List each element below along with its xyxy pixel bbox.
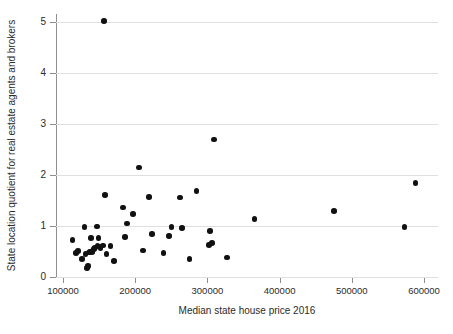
data-point bbox=[79, 256, 85, 262]
data-point bbox=[177, 195, 183, 201]
data-point bbox=[224, 255, 230, 261]
data-point bbox=[140, 248, 146, 254]
data-point bbox=[149, 231, 155, 237]
data-point bbox=[211, 137, 217, 143]
data-point bbox=[82, 224, 88, 230]
data-point bbox=[169, 224, 175, 230]
x-axis-title: Median state house price 2016 bbox=[56, 305, 438, 317]
data-point bbox=[209, 240, 215, 246]
plot-data-area bbox=[56, 14, 438, 277]
data-point bbox=[194, 188, 200, 194]
x-axis-tick-label: 500000 bbox=[336, 286, 368, 296]
x-axis-tick bbox=[207, 278, 208, 283]
data-point bbox=[207, 228, 213, 234]
data-point bbox=[413, 180, 419, 186]
data-point bbox=[130, 211, 136, 217]
x-axis-tick bbox=[63, 278, 64, 283]
data-point bbox=[96, 235, 102, 241]
data-point bbox=[122, 234, 128, 240]
x-axis-tick-label: 400000 bbox=[264, 286, 296, 296]
data-point bbox=[111, 258, 117, 264]
gridline-y bbox=[56, 73, 438, 74]
data-point bbox=[70, 237, 76, 243]
x-axis-tick bbox=[280, 278, 281, 283]
data-point bbox=[166, 233, 172, 239]
data-point bbox=[402, 224, 408, 230]
gridline-y bbox=[56, 175, 438, 176]
x-axis-tick-label: 300000 bbox=[192, 286, 224, 296]
x-axis-tick-label: 200000 bbox=[119, 286, 151, 296]
data-point bbox=[104, 251, 110, 257]
data-point bbox=[187, 256, 193, 262]
data-point bbox=[120, 205, 126, 211]
x-axis-tick bbox=[352, 278, 353, 283]
scatter-plot-figure: 012345 100000200000300000400000500000600… bbox=[0, 0, 453, 334]
data-point bbox=[100, 243, 106, 249]
data-point bbox=[102, 192, 108, 198]
data-point bbox=[179, 225, 185, 231]
y-axis-title: State location quotient for real estate … bbox=[6, 14, 36, 277]
gridline-y bbox=[56, 226, 438, 227]
data-point bbox=[75, 248, 81, 254]
data-point bbox=[331, 208, 337, 214]
gridline-y bbox=[56, 124, 438, 125]
data-point bbox=[161, 250, 167, 256]
data-point bbox=[88, 235, 94, 241]
x-axis-tick-label: 100000 bbox=[47, 286, 79, 296]
x-axis-tick bbox=[424, 278, 425, 283]
data-point bbox=[85, 263, 91, 269]
data-point bbox=[108, 243, 114, 249]
data-point bbox=[94, 224, 100, 230]
data-point bbox=[101, 18, 107, 24]
x-axis-tick bbox=[135, 278, 136, 283]
data-point bbox=[146, 194, 152, 200]
data-point bbox=[252, 216, 258, 222]
data-point bbox=[136, 165, 142, 171]
x-axis-tick-label: 600000 bbox=[408, 286, 440, 296]
gridline-y bbox=[56, 22, 438, 23]
gridline-y bbox=[56, 277, 438, 278]
